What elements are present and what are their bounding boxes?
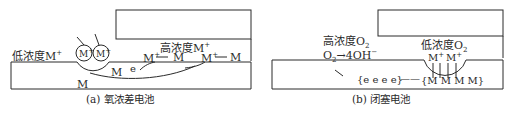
arrow-ion-2 [95,34,99,45]
metal-label-1: M [111,67,122,78]
reaction-1-right: M [173,52,184,63]
caption-a: (a) 氧浓差电池 [86,94,154,105]
panel-a-upper-plate [116,10,251,39]
panel-b-upper-plate [378,10,503,36]
metal-label-2: M [77,79,88,90]
reaction-1-left: M+ [143,52,160,64]
metals-label: {M M M M} [421,76,484,86]
ion-label-b-2: M+ [446,52,462,63]
reaction-2-right: M [230,52,241,63]
reaction-2-left: M+ [201,52,218,64]
arrow-ion-1 [77,37,84,45]
dash-connector: —— [400,74,420,84]
ion-label-1: M+ [79,48,94,59]
ion-label-2: M+ [96,48,111,59]
electrons-label: {e e e e} [357,75,403,85]
arrow-electron [335,70,343,76]
electron-label-a: e [130,64,136,74]
ion-label-b-1: M+ [428,52,444,63]
low-conc-label-a: 低浓度M+ [12,50,62,62]
caption-b: (b) 闭塞电池 [352,94,410,105]
reaction-label-b: O2→4OH− [323,49,377,64]
